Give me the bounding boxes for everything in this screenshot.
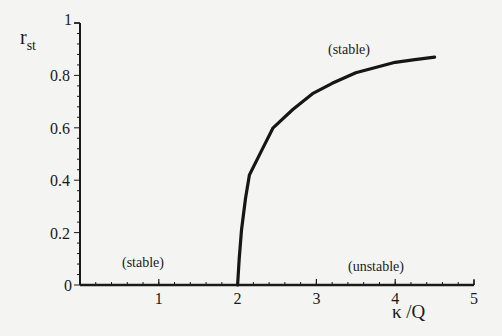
y-tick-label: 1 <box>64 11 72 28</box>
x-tick-label: 1 <box>155 290 163 307</box>
y-tick-label: 0 <box>64 277 72 294</box>
x-tick-label: 2 <box>234 290 242 307</box>
y-tick-label: 0.4 <box>50 172 70 189</box>
annotation-stable-left: (stable) <box>122 255 164 271</box>
stability-curve <box>238 57 435 285</box>
annotation-stable-top: (stable) <box>328 42 370 58</box>
stability-chart: 00.20.40.60.81 12345 rst κ /Q (stable) (… <box>0 0 502 336</box>
annotation-unstable: (unstable) <box>348 259 404 275</box>
x-tick-label: 5 <box>470 290 478 307</box>
y-axis: 00.20.40.60.81 <box>50 11 80 294</box>
x-axis-label: κ /Q <box>392 301 426 322</box>
x-tick-label: 3 <box>312 290 320 307</box>
y-axis-label: rst <box>20 26 36 53</box>
y-tick-label: 0.8 <box>50 67 70 84</box>
y-tick-label: 0.6 <box>50 120 70 137</box>
y-tick-label: 0.2 <box>50 225 70 242</box>
